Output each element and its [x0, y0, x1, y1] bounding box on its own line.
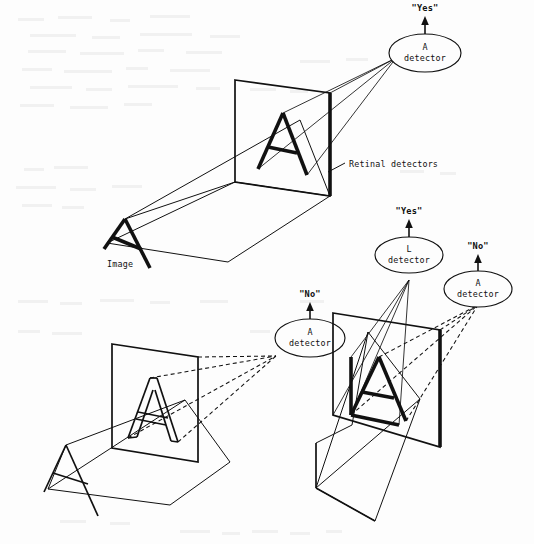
a-detector-top[interactable]: A detector — [389, 34, 461, 72]
top-retina-letter-A — [258, 113, 307, 175]
bl-image-letter-A — [44, 445, 98, 516]
top-response-label: "Yes" — [412, 3, 439, 13]
a-detector-br[interactable]: A detector — [444, 271, 512, 307]
a-detector-bl-letter: A — [307, 327, 312, 337]
br-l-response-label: "Yes" — [396, 206, 423, 216]
top-response-arrow — [421, 16, 429, 34]
panel-bottom-left: A detector "No" — [44, 289, 345, 516]
panel-top: Retinal detectors Image A detector "Yes" — [104, 3, 461, 269]
bl-response-label: "No" — [299, 289, 321, 299]
figure-root: Retinal detectors Image A detector "Yes" — [0, 0, 534, 544]
a-detector-top-letter: A — [422, 42, 427, 52]
figure-canvas: Retinal detectors Image A detector "Yes" — [0, 0, 534, 544]
top-rays-to-detector — [258, 58, 396, 175]
bl-response-arrow — [306, 302, 314, 319]
br-l-response-arrow — [405, 219, 413, 237]
a-detector-top-word: detector — [404, 53, 446, 63]
retinal-detectors-label: Retinal detectors — [349, 159, 438, 169]
l-detector-br-word: detector — [388, 255, 430, 265]
l-detector-br[interactable]: L detector — [375, 237, 443, 273]
a-detector-bl[interactable]: A detector — [275, 319, 345, 357]
l-detector-br-letter: L — [406, 244, 411, 254]
a-detector-bl-word: detector — [289, 338, 331, 348]
a-detector-br-letter: A — [475, 278, 480, 288]
paper-noise — [16, 15, 490, 535]
br-projection-solid — [316, 332, 420, 521]
bl-retinal-plane — [112, 344, 198, 462]
panel-bottom-right: L detector "Yes" A detector "No" — [316, 206, 512, 521]
a-detector-br-word: detector — [457, 289, 499, 299]
br-a-response-label: "No" — [467, 241, 489, 251]
image-label: Image — [107, 259, 133, 269]
br-a-response-arrow — [474, 254, 482, 271]
